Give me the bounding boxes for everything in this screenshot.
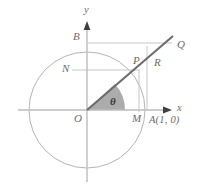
unit-circle-figure: y B Q P R N x O M A(1, 0) θ — [0, 0, 197, 195]
point-label-q: Q — [177, 39, 185, 50]
point-label-m: M — [132, 113, 141, 124]
ray-o-to-q — [87, 36, 173, 110]
angle-label-theta: θ — [110, 96, 116, 107]
point-label-a: A(1, 0) — [149, 115, 180, 126]
point-label-o: O — [74, 113, 82, 124]
figure-canvas — [0, 0, 197, 195]
point-label-r: R — [154, 57, 161, 68]
x-axis-arrowhead — [163, 106, 172, 113]
point-label-b: B — [73, 31, 80, 42]
point-label-p: P — [133, 55, 140, 66]
point-label-n: N — [62, 63, 69, 74]
x-axis-label: x — [177, 103, 182, 114]
y-axis-arrowhead — [84, 21, 91, 30]
y-axis-label: y — [84, 5, 89, 16]
